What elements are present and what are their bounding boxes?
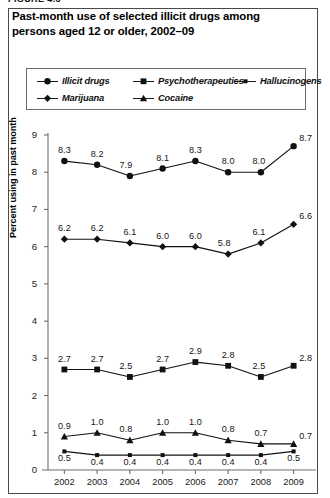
page-title: Past-month use of selected illicit drugs… [12, 9, 298, 38]
triangle-marker-icon [133, 94, 154, 103]
square-marker-icon [133, 77, 154, 86]
legend-item-psychotherapeutics[interactable]: Psychotherapeutics [133, 74, 244, 88]
legend-label: Psychotherapeutics [158, 76, 244, 86]
circle-glyph [44, 78, 50, 84]
small-square-marker-icon [235, 77, 256, 86]
small-square-glyph [244, 79, 248, 83]
triangle-glyph [140, 94, 147, 101]
legend-label: Illicit drugs [62, 76, 110, 86]
square-glyph [141, 78, 147, 84]
legend-label: Marijuana [62, 93, 104, 103]
legend-item-cocaine[interactable]: Cocaine [133, 91, 193, 105]
diamond-glyph [44, 94, 51, 101]
legend-item-marijuana[interactable]: Marijuana [37, 91, 104, 105]
legend-label: Cocaine [158, 93, 193, 103]
circle-marker-icon [37, 77, 58, 86]
figure-number: FIGURE 4.3 [8, 0, 61, 2]
diamond-marker-icon [37, 94, 58, 103]
chart-legend: Illicit drugsPsychotherapeuticsHallucino… [26, 68, 306, 110]
legend-item-illicit-drugs[interactable]: Illicit drugs [37, 74, 110, 88]
legend-item-hallucinogens[interactable]: Hallucinogens [235, 74, 322, 88]
legend-label: Hallucinogens [260, 76, 322, 86]
